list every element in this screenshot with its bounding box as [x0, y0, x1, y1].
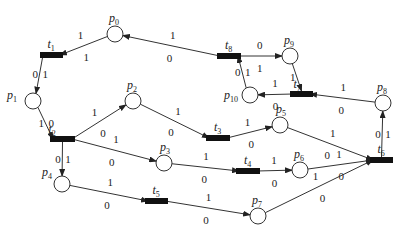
place-circle[interactable]: [242, 87, 258, 103]
arc-weight-lower: 0: [324, 149, 330, 161]
arc-weight-lower: 0: [203, 214, 209, 226]
place-label: p9: [283, 33, 294, 49]
place-label-main: p: [293, 147, 300, 161]
arc-weight-upper: 1: [38, 117, 44, 129]
place-label-sub: 0: [115, 18, 119, 27]
arc-weight-lower: 0: [100, 127, 106, 139]
petri-net-diagram: 1011011010101010101010100110101001101001…: [0, 0, 408, 236]
transition-t7[interactable]: t7: [290, 77, 313, 97]
place-p2[interactable]: p2: [125, 78, 141, 109]
transition-label-sub: 1: [51, 44, 55, 53]
transition-label-sub: 3: [217, 127, 221, 136]
place-circle[interactable]: [54, 176, 70, 192]
arc-line: [310, 94, 375, 102]
place-label: p6: [293, 147, 304, 163]
arc-t8-p0: 10: [123, 29, 220, 64]
arc-weight-lower: 0: [320, 192, 326, 204]
transition-label-sub: 5: [156, 190, 160, 199]
place-circle[interactable]: [107, 26, 123, 42]
arc-line: [258, 94, 293, 95]
transition-t4[interactable]: t4: [236, 153, 260, 174]
arc-weight-upper: 1: [245, 116, 251, 128]
place-label-main: p: [283, 33, 290, 47]
arc-weight-lower: 1: [257, 62, 263, 74]
arc-weight-lower: 0: [109, 156, 115, 168]
arc-p3-t4: 10: [172, 150, 239, 185]
place-circle[interactable]: [282, 48, 298, 64]
transition-t3[interactable]: t3: [206, 120, 230, 141]
place-label-sub: 10: [230, 95, 238, 104]
arc-weight-upper: 0: [235, 66, 241, 78]
place-label-sub: 1: [13, 95, 17, 104]
arc-t2-p4: 01: [55, 142, 71, 176]
place-label-sub: 5: [282, 109, 286, 118]
place-label-main: p: [159, 140, 166, 154]
arc-line: [165, 201, 250, 215]
place-circle[interactable]: [292, 162, 308, 178]
place-p10[interactable]: p10: [223, 87, 258, 104]
transition-bar[interactable]: [290, 91, 313, 97]
arc-weight-lower: 0: [168, 126, 174, 138]
arc-weight-upper: 1: [175, 105, 181, 117]
place-circle[interactable]: [156, 155, 172, 171]
arcs-layer: 1011011010101010101010100110101001101001…: [32, 29, 390, 226]
arc-p2-t3: 10: [140, 104, 209, 138]
arc-weight-upper: 1: [78, 29, 84, 41]
place-label-sub: 7: [258, 200, 262, 209]
arc-p4-t5: 10: [70, 176, 148, 211]
place-label-sub: 8: [383, 87, 387, 96]
place-label-sub: 6: [300, 154, 304, 163]
place-label-main: p: [126, 78, 133, 92]
arc-line: [227, 127, 272, 138]
place-label: p2: [126, 78, 137, 94]
arc-weight-upper: 1: [113, 133, 119, 145]
arc-weight-upper: 1: [92, 106, 98, 118]
place-p0[interactable]: p0: [107, 11, 123, 42]
place-p4[interactable]: p4: [41, 165, 70, 192]
arc-weight-lower: 0: [167, 52, 173, 64]
place-p8[interactable]: p8: [375, 80, 391, 111]
arc-weight-lower: 1: [65, 153, 71, 165]
arc-t2-p3: 10: [72, 133, 156, 167]
place-label: p3: [159, 140, 170, 156]
arc-weight-upper: 0: [55, 153, 61, 165]
place-label-main: p: [41, 165, 48, 179]
arc-weight-lower: 0: [339, 104, 345, 116]
transition-t8[interactable]: t8: [217, 38, 241, 59]
place-p1[interactable]: p1: [6, 88, 41, 109]
place-label-main: p: [108, 11, 115, 25]
place-label: p10: [223, 88, 238, 104]
arc-weight-lower: 1: [385, 128, 391, 140]
arc-weight-upper: 1: [313, 170, 319, 182]
arc-t4-p6: 10: [257, 154, 292, 189]
place-label-main: p: [223, 88, 230, 102]
place-p6[interactable]: p6: [292, 147, 308, 178]
arc-weight-lower: 0: [272, 177, 278, 189]
place-circle[interactable]: [272, 117, 288, 133]
place-label: p7: [251, 193, 262, 209]
place-p7[interactable]: p7: [250, 193, 266, 224]
place-label-main: p: [275, 102, 282, 116]
arc-weight-upper: 1: [272, 77, 278, 89]
place-p3[interactable]: p3: [156, 140, 172, 171]
arc-weight-upper: 1: [330, 127, 336, 139]
place-label: p1: [6, 88, 17, 104]
place-circle[interactable]: [250, 208, 266, 224]
place-p9[interactable]: p9: [282, 33, 298, 64]
arc-line: [172, 164, 239, 171]
transition-label: t3: [214, 120, 221, 136]
place-label-sub: 4: [48, 172, 52, 181]
arc-p0-t1: 11: [60, 29, 107, 63]
transition-label-sub: 8: [228, 45, 232, 54]
place-label-sub: 9: [290, 40, 294, 49]
place-label-sub: 3: [166, 147, 170, 156]
place-circle[interactable]: [125, 93, 141, 109]
transition-t1[interactable]: t1: [40, 37, 63, 58]
transition-label: t8: [225, 38, 232, 54]
transition-t5[interactable]: t5: [145, 183, 168, 204]
place-circle[interactable]: [375, 95, 391, 111]
arc-weight-upper: 1: [336, 148, 342, 160]
transition-label: t1: [48, 37, 55, 53]
place-circle[interactable]: [25, 93, 41, 109]
place-label-sub: 2: [133, 85, 137, 94]
